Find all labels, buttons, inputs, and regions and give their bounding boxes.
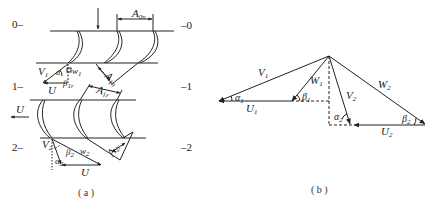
velocity-triangles-b (219, 56, 425, 125)
station-0-left: 0– (12, 18, 24, 30)
svg-text:V2: V2 (42, 138, 53, 152)
svg-text:β2: β2 (401, 113, 411, 126)
station-2-right: –2 (180, 141, 192, 153)
cascade-diagram-a (11, 8, 174, 170)
caption-a: ( a ) (78, 187, 94, 199)
svg-text:A2r: A2r (104, 141, 123, 160)
svg-text:U1: U1 (246, 102, 257, 116)
svg-text:W1: W1 (310, 74, 323, 88)
svg-text:V1: V1 (38, 65, 48, 79)
rotor-blades (38, 100, 125, 138)
svg-text:β1: β1 (301, 91, 310, 104)
caption-b: ( b ) (311, 184, 328, 196)
W2-vector-b (329, 56, 425, 124)
svg-text:U2: U2 (381, 125, 393, 139)
svg-text:w1: w1 (72, 66, 82, 78)
svg-text:V2: V2 (346, 89, 357, 103)
svg-text:α1: α1 (235, 92, 244, 105)
station-1-right: –1 (180, 80, 192, 92)
station-1-left: 1– (12, 80, 24, 92)
svg-text:A0n: A0n (131, 7, 146, 21)
svg-text:V1: V1 (258, 66, 268, 80)
svg-text:α2: α2 (55, 156, 64, 168)
svg-text:W2: W2 (378, 78, 391, 92)
svg-text:α2: α2 (334, 111, 343, 124)
label-U-top: U (48, 84, 57, 96)
station-0-right: –0 (180, 19, 193, 31)
station-2-left: 2– (12, 141, 24, 153)
velocity-triangle-figure: 0– –0 1– –1 2– –2 A0n A1n A1r A2r V1 α w… (0, 0, 439, 209)
stator-blades (68, 31, 158, 63)
label-U-bot: U (81, 166, 90, 178)
svg-text:β2: β2 (65, 147, 74, 159)
label-U-mid: U (16, 103, 25, 115)
